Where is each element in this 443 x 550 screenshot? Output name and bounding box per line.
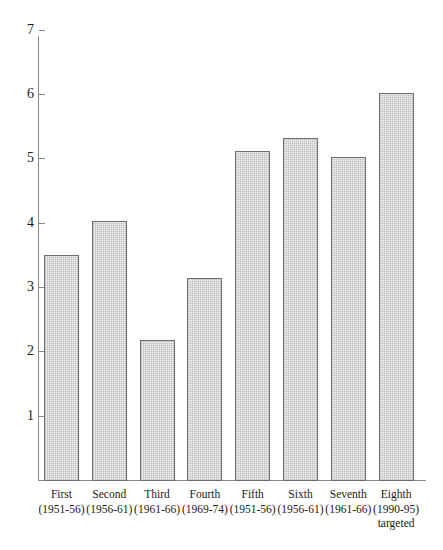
- bar: [379, 93, 414, 481]
- y-axis-tick-label: 1: [6, 409, 34, 423]
- y-axis-tick-label: 3: [6, 280, 34, 294]
- bar: [283, 138, 318, 481]
- bar: [235, 151, 270, 481]
- y-axis-tick-mark: [39, 223, 45, 224]
- y-axis-tick-label: 4: [6, 216, 34, 230]
- x-axis-category-label: Eighth(1990-95)targeted: [362, 487, 430, 531]
- category-name: Eighth: [362, 487, 430, 502]
- bar-chart: 7654321 First(1951-56)Second(1956-61)Thi…: [0, 0, 443, 550]
- y-axis-tick-label: 7: [6, 23, 34, 37]
- y-axis-tick-label: 2: [6, 344, 34, 358]
- bar: [187, 278, 222, 481]
- category-years: (1990-95): [362, 502, 430, 517]
- y-axis-tick-label: 5: [6, 151, 34, 165]
- y-axis-tick-label: 6: [6, 87, 34, 101]
- y-axis-tick-mark: [39, 94, 45, 95]
- y-axis-line: [38, 36, 39, 481]
- bar: [331, 157, 366, 481]
- bar: [92, 221, 127, 481]
- bar: [140, 340, 175, 481]
- category-note: targeted: [362, 516, 430, 531]
- bar: [44, 255, 79, 481]
- y-axis-tick-mark: [39, 158, 45, 159]
- y-axis-tick-mark: [39, 30, 45, 31]
- plot-area: 7654321 First(1951-56)Second(1956-61)Thi…: [0, 0, 443, 550]
